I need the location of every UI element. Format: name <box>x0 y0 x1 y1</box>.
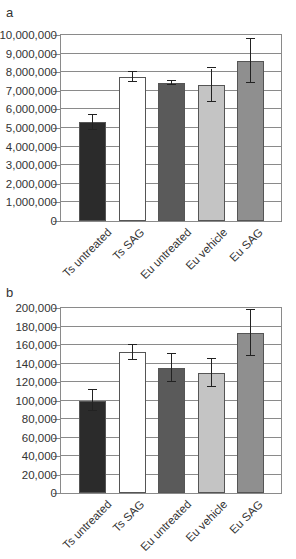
error-bar <box>211 359 212 387</box>
error-bar <box>92 390 93 410</box>
y-tick-label: 60,000 <box>22 432 57 444</box>
y-tick-label: 40,000 <box>22 450 57 462</box>
error-bar <box>132 345 133 360</box>
error-bar-cap <box>88 389 97 390</box>
error-bar-cap <box>207 358 216 359</box>
y-tick-label: 0 <box>51 487 57 499</box>
error-bar <box>250 310 251 356</box>
panel-label-b: b <box>6 285 13 300</box>
error-bar <box>171 354 172 382</box>
gridline <box>61 326 281 327</box>
bar-ts-sag <box>119 352 146 493</box>
y-tick-label: 100,000 <box>15 395 57 407</box>
y-tick-label: 80,000 <box>22 413 57 425</box>
error-bar-cap <box>128 359 137 360</box>
y-tick-label: 200,000 <box>15 302 57 314</box>
error-bar-cap <box>167 381 176 382</box>
bar-eu-vehicle <box>198 373 225 493</box>
y-tick-label: 140,000 <box>15 358 57 370</box>
bar-ts-untreated <box>79 401 106 494</box>
plot-area-b <box>60 307 282 494</box>
error-bar-cap <box>128 344 137 345</box>
error-bar-cap <box>207 386 216 387</box>
x-tick-label: Ts untreated <box>60 498 113 551</box>
y-tick-label: 180,000 <box>15 321 57 333</box>
error-bar-cap <box>88 410 97 411</box>
bar-eu-untreated <box>158 368 185 493</box>
bar-eu-sag <box>237 333 264 493</box>
y-tick-label: 160,000 <box>15 339 57 351</box>
error-bar-cap <box>246 309 255 310</box>
chart-panel-b: b 020,00040,00060,00080,000100,000120,00… <box>0 0 296 559</box>
error-bar-cap <box>167 353 176 354</box>
y-tick-label: 120,000 <box>15 376 57 388</box>
y-tick-label: 20,000 <box>22 469 57 481</box>
x-tick-label: Ts SAG <box>110 498 146 534</box>
error-bar-cap <box>246 355 255 356</box>
x-tick-label: Eu SAG <box>227 498 265 536</box>
